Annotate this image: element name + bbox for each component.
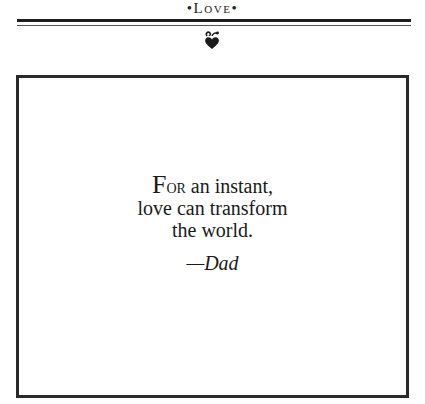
quote-attribution: —Dad xyxy=(0,252,425,274)
quote-line-1: For an instant, xyxy=(0,174,425,197)
heart-fleuron-icon xyxy=(203,30,221,50)
running-head-title: •Love• xyxy=(0,0,425,17)
quote-line-3: the world. xyxy=(0,219,425,241)
quote-line-2: love can transform xyxy=(0,197,425,219)
header-rule-thin xyxy=(17,25,411,26)
quote-text: For an instant, love can transform the w… xyxy=(0,174,425,241)
header-rule-thick xyxy=(17,19,411,22)
quote-line-1-rest: an instant, xyxy=(186,175,273,197)
quote-dropcap: F xyxy=(152,170,166,199)
quote-smallcaps: or xyxy=(166,175,185,197)
